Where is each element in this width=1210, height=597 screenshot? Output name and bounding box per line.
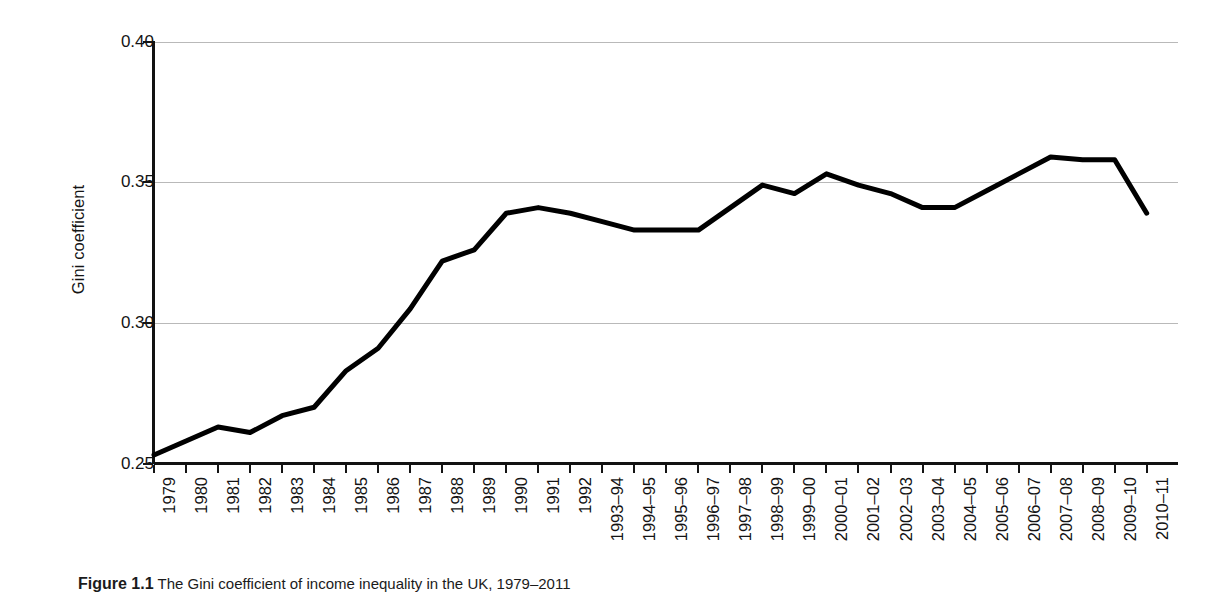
- caption-label: Figure 1.1: [78, 575, 154, 592]
- figure-gini-coefficient: Gini coefficient 0.400.350.300.25 Figure…: [0, 0, 1210, 597]
- x-axis-tick-mark: [857, 465, 859, 473]
- x-axis-tick-label: 2007–08: [1057, 477, 1076, 541]
- x-axis-tick-label: 1986: [384, 477, 403, 514]
- x-axis-tick-label: 1989: [480, 477, 499, 514]
- x-axis-tick-label: 1985: [352, 477, 371, 514]
- x-axis-tick-mark: [281, 465, 283, 473]
- gridline: [154, 182, 1178, 183]
- x-axis-tick-mark: [1114, 465, 1116, 473]
- plot-area: [154, 42, 1178, 464]
- x-axis-tick-label: 1990: [512, 477, 531, 514]
- x-axis-tick-label: 2003–04: [929, 477, 948, 541]
- x-axis-tick-mark: [249, 465, 251, 473]
- y-axis-tick-group: 0.400.350.300.25: [78, 0, 154, 597]
- caption-text: The Gini coefficient of income inequalit…: [157, 575, 570, 592]
- y-axis-tick-label: 0.30: [94, 313, 154, 333]
- x-axis-tick-mark: [601, 465, 603, 473]
- x-axis-tick-mark: [569, 465, 571, 473]
- x-axis-tick-mark: [1050, 465, 1052, 473]
- x-axis-tick-mark: [761, 465, 763, 473]
- x-axis-tick-label: 1982: [256, 477, 275, 514]
- y-axis-tick-label: 0.35: [94, 172, 154, 192]
- x-axis-tick-label: 1995–96: [672, 477, 691, 541]
- x-axis-tick-label: 1987: [416, 477, 435, 514]
- x-axis-tick-mark: [665, 465, 667, 473]
- x-axis-tick-mark: [377, 465, 379, 473]
- x-axis-tick-label: 2009–10: [1121, 477, 1140, 541]
- x-axis-tick-mark: [505, 465, 507, 473]
- x-axis-tick-label: 1991: [544, 477, 563, 514]
- x-axis-tick-label: 1997–98: [736, 477, 755, 541]
- x-axis-tick-mark: [313, 465, 315, 473]
- x-axis-tick-label: 2005–06: [993, 477, 1012, 541]
- x-axis-tick-mark: [729, 465, 731, 473]
- gridline: [154, 323, 1178, 324]
- x-axis-tick-label: 1999–00: [800, 477, 819, 541]
- x-axis-tick-label: 1988: [448, 477, 467, 514]
- y-axis-tick-label: 0.40: [94, 32, 154, 52]
- x-axis-tick-label: 1998–99: [768, 477, 787, 541]
- x-axis-tick-label: 1994–95: [640, 477, 659, 541]
- figure-caption: Figure 1.1 The Gini coefficient of incom…: [78, 575, 1138, 593]
- x-axis-tick-mark: [825, 465, 827, 473]
- y-axis-line: [152, 41, 155, 464]
- x-axis-tick-mark: [345, 465, 347, 473]
- x-axis-tick-mark: [441, 465, 443, 473]
- x-axis-tick-mark: [1082, 465, 1084, 473]
- x-axis-tick-label: 2010–11: [1153, 477, 1172, 540]
- x-axis-tick-label: 1979: [160, 477, 179, 514]
- x-axis-tick-mark: [922, 465, 924, 473]
- x-axis-tick-mark: [890, 465, 892, 473]
- x-axis-tick-mark: [954, 465, 956, 473]
- x-axis-tick-label: 1993–94: [608, 477, 627, 541]
- x-axis-tick-mark: [1018, 465, 1020, 473]
- x-axis-tick-label: 2006–07: [1025, 477, 1044, 541]
- x-axis-tick-mark: [986, 465, 988, 473]
- gridline: [154, 42, 1178, 43]
- x-axis-tick-label: 1981: [224, 477, 243, 514]
- x-axis-tick-label: 1983: [288, 477, 307, 514]
- x-axis-tick-label: 1980: [192, 477, 211, 514]
- x-axis-tick-mark: [1146, 465, 1148, 473]
- x-axis-tick-label: 2000–01: [832, 477, 851, 541]
- x-axis-tick-mark: [217, 465, 219, 473]
- x-axis-tick-label: 1992: [576, 477, 595, 514]
- x-axis-tick-mark: [473, 465, 475, 473]
- x-axis-tick-mark: [793, 465, 795, 473]
- x-axis-tick-label: 1984: [320, 477, 339, 514]
- x-axis-tick-label: 2008–09: [1089, 477, 1108, 541]
- x-axis-tick-label: 1996–97: [704, 477, 723, 541]
- x-axis-tick-label: 2002–03: [897, 477, 916, 541]
- x-axis-tick-mark: [697, 465, 699, 473]
- x-axis-tick-mark: [633, 465, 635, 473]
- x-axis-tick-mark: [153, 465, 155, 473]
- y-axis-tick-label: 0.25: [94, 454, 154, 474]
- x-axis-tick-mark: [185, 465, 187, 473]
- x-axis-tick-label: 2004–05: [961, 477, 980, 541]
- x-axis-tick-label: 2001–02: [864, 477, 883, 541]
- x-axis-tick-mark: [537, 465, 539, 473]
- x-axis-tick-mark: [409, 465, 411, 473]
